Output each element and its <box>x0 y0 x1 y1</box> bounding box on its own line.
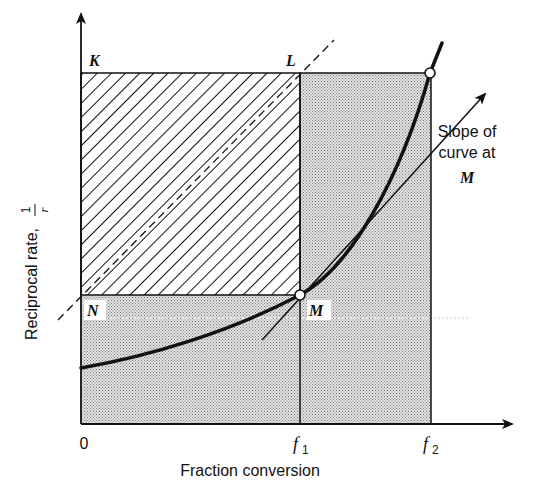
svg-text:2: 2 <box>432 443 439 457</box>
svg-text:1: 1 <box>19 206 33 213</box>
label-L: L <box>285 52 296 69</box>
annotation-line-2: curve at <box>439 144 496 161</box>
svg-text:r: r <box>36 207 51 213</box>
hatched-rectangle-KLMN <box>81 73 300 295</box>
x-axis-label: Fraction conversion <box>180 462 320 479</box>
x-tick-f1: f 1 <box>293 434 309 457</box>
diagram-canvas: K L N M Slope of curve at M 0 f 1 f 2 Fr… <box>0 0 543 492</box>
label-K: K <box>88 52 101 69</box>
x-tick-0: 0 <box>80 435 89 452</box>
svg-text:f: f <box>293 434 301 454</box>
y-axis-label: Reciprocal rate, 1 r <box>19 204 51 340</box>
annotation-line-1: Slope of <box>438 123 497 140</box>
x-tick-f2: f 2 <box>423 434 439 457</box>
point-M-marker <box>295 290 305 300</box>
label-N: N <box>86 302 100 319</box>
label-M: M <box>308 302 324 319</box>
annotation-line-3: M <box>459 169 475 186</box>
svg-text:f: f <box>423 434 431 454</box>
point-f2-marker <box>425 68 435 78</box>
svg-text:1: 1 <box>302 443 309 457</box>
svg-text:Reciprocal rate,: Reciprocal rate, <box>23 228 40 340</box>
